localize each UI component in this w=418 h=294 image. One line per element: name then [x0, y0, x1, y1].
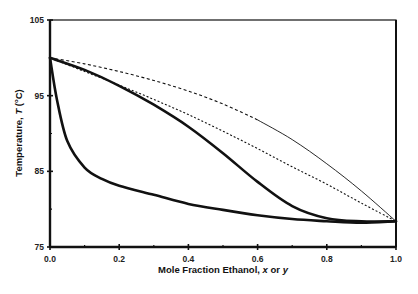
y-tick-label: 85 — [35, 166, 45, 176]
x-axis-title: Mole Fraction Ethanol, x or y — [158, 264, 289, 275]
series-line-bold-2 — [50, 58, 396, 222]
series-line-ideal-upper — [50, 58, 258, 120]
x-tick-label: 1.0 — [390, 254, 402, 264]
y-tick-label: 75 — [35, 242, 45, 252]
x-tick-label: 0.2 — [113, 254, 125, 264]
x-tick-label: 0.0 — [44, 254, 56, 264]
axis-ticks — [47, 20, 396, 250]
x-tick-label: 0.6 — [252, 254, 264, 264]
tick-labels: 0.00.20.40.60.81.0758595105 — [30, 15, 402, 264]
series-line-ideal-upper-solid — [258, 120, 396, 221]
x-tick-label: 0.4 — [182, 254, 194, 264]
y-tick-label: 95 — [35, 91, 45, 101]
series-layer — [50, 58, 396, 223]
plot-frame — [50, 20, 396, 247]
y-axis-title: Temperature, T (oC) — [13, 89, 24, 176]
series-line-ideal-lower — [50, 58, 396, 222]
series-line-bold-3 — [50, 58, 396, 223]
y-tick-label: 105 — [30, 15, 44, 25]
x-tick-label: 0.8 — [321, 254, 333, 264]
chart: 0.00.20.40.60.81.0758595105 Mole Fractio… — [0, 0, 418, 294]
